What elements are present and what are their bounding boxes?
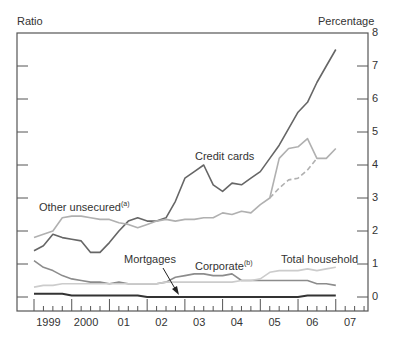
credit-cards-line [34, 50, 336, 253]
x-tick-label: 1999 [36, 316, 60, 328]
other-unsecured-label-text: Other unsecured [39, 201, 121, 213]
total-household-label-text: Total household [281, 253, 358, 265]
x-tick-label: 04 [231, 316, 243, 328]
mortgages-label: Mortgages [124, 253, 176, 265]
y-tick-label: 4 [372, 158, 378, 170]
mortgages-line [34, 294, 336, 297]
corporate-label-text: Corporate [195, 260, 244, 272]
mortgages-label-text: Mortgages [124, 253, 176, 265]
total-household-line [34, 267, 336, 287]
y-tick-label: 3 [372, 191, 378, 203]
y-tick-label: 7 [372, 59, 378, 71]
x-tick-label: 2000 [74, 316, 98, 328]
y-tick-label: 5 [372, 125, 378, 137]
x-tick-label: 02 [155, 316, 167, 328]
credit-cards-label-text: Credit cards [195, 150, 254, 162]
y-tick-label: 6 [372, 92, 378, 104]
x-tick-label: 03 [193, 316, 205, 328]
other-unsecured-footnote: (a) [121, 200, 130, 207]
arrow-head-icon [172, 286, 179, 295]
corporate-label: Corporate(b) [195, 259, 252, 272]
y-tick-label: 8 [372, 26, 378, 38]
y-tick-label: 1 [372, 257, 378, 269]
y-tick-label: 2 [372, 224, 378, 236]
y-tick-label: 0 [372, 290, 378, 302]
other-unsecured-a-alternative-line [270, 158, 317, 198]
x-tick-label: 06 [306, 316, 318, 328]
corporate-footnote: (b) [244, 259, 253, 266]
credit-cards-label: Credit cards [195, 150, 254, 162]
other-unsecured-label: Other unsecured(a) [39, 200, 130, 213]
x-tick-label: 01 [118, 316, 130, 328]
x-tick-label: 07 [344, 316, 356, 328]
chart-plot [0, 0, 393, 342]
total-household-label: Total household [281, 253, 358, 265]
x-tick-label: 05 [268, 316, 280, 328]
other-unsecured-a-line [34, 139, 336, 238]
